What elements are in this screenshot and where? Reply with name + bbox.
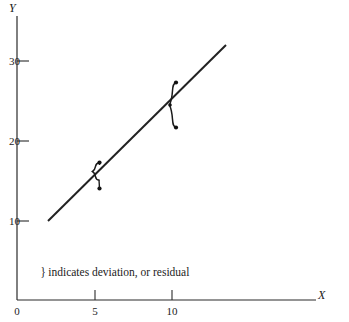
x-tick-label-10: 10 bbox=[160, 305, 184, 317]
x-axis-title: X bbox=[318, 288, 325, 303]
regression-deviation-figure: Y X 30 20 10 0 5 10 } indicates deviatio… bbox=[0, 0, 349, 322]
y-tick-label-30: 30 bbox=[0, 55, 20, 67]
x-tick-label-5: 5 bbox=[83, 305, 107, 317]
y-tick-label-20: 20 bbox=[0, 135, 20, 147]
y-tick-label-10: 10 bbox=[0, 215, 20, 227]
regression-line bbox=[48, 45, 226, 221]
legend-note-text: indicates deviation, or residual bbox=[48, 266, 189, 278]
data-point-x10-on-line bbox=[168, 103, 172, 107]
y-axis-title: Y bbox=[9, 1, 16, 16]
data-point-x10-lower bbox=[174, 125, 178, 129]
brace-icon: } bbox=[40, 265, 45, 278]
legend-note: } indicates deviation, or residual bbox=[40, 265, 189, 278]
axis-origin-label: 0 bbox=[5, 305, 29, 317]
deviation-stem-x5-lower bbox=[99, 180, 100, 189]
data-point-x10-upper bbox=[174, 80, 178, 84]
